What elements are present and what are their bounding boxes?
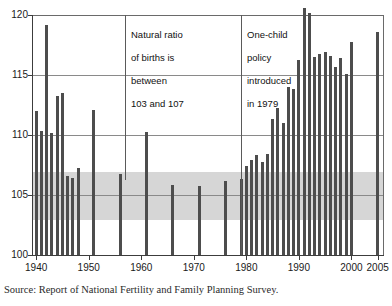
bar — [308, 13, 311, 255]
bar — [345, 74, 348, 255]
x-tick-2005 — [378, 256, 379, 260]
bar — [313, 57, 316, 255]
bar — [261, 162, 264, 255]
bar — [40, 131, 43, 255]
one-child-line-1: One-child — [247, 29, 291, 41]
bar — [250, 160, 253, 255]
bar — [303, 8, 306, 255]
bar — [297, 60, 300, 255]
x-axis-label-2000: 2000 — [340, 262, 362, 273]
bar — [45, 25, 48, 255]
bar — [266, 154, 269, 255]
bar — [145, 132, 148, 255]
bar — [66, 176, 69, 255]
natural-ratio-line-1: Natural ratio — [131, 29, 184, 41]
bar — [35, 111, 38, 255]
bar — [56, 96, 59, 255]
bar — [198, 186, 201, 255]
bar — [77, 168, 80, 255]
bar — [334, 67, 337, 255]
x-tick-1950 — [89, 256, 90, 260]
bar — [92, 110, 95, 255]
bar-series — [32, 15, 384, 256]
bar — [255, 155, 258, 255]
x-axis-label-1960: 1960 — [130, 262, 152, 273]
plot-area — [32, 15, 384, 256]
x-axis: 19401950196019701980199020002005 — [0, 262, 392, 276]
natural-ratio-leader-line — [125, 15, 126, 180]
x-axis-label-2005: 2005 — [367, 262, 389, 273]
y-axis: 120 115 110 105 100 — [0, 0, 28, 306]
bar — [50, 133, 53, 255]
x-tick-1940 — [36, 256, 37, 260]
bar — [245, 166, 248, 255]
x-tick-1960 — [141, 256, 142, 260]
bar — [61, 93, 64, 255]
x-axis-label-1970: 1970 — [183, 262, 205, 273]
x-axis-label-1980: 1980 — [235, 262, 257, 273]
one-child-annotation: One-child policy introduced in 1979 — [247, 17, 291, 121]
natural-ratio-line-3: between — [131, 75, 184, 87]
bar — [324, 52, 327, 255]
bar — [224, 181, 227, 255]
bar — [271, 119, 274, 255]
bar — [329, 56, 332, 255]
y-axis-label-110: 110 — [12, 130, 28, 140]
x-axis-label-1990: 1990 — [288, 262, 310, 273]
x-tick-2000 — [351, 256, 352, 260]
natural-ratio-annotation: Natural ratio of births is between 103 a… — [131, 17, 184, 121]
x-axis-label-1940: 1940 — [25, 262, 47, 273]
bar — [282, 123, 285, 255]
bar — [350, 42, 353, 255]
one-child-line-2: policy — [247, 52, 291, 64]
x-tick-1990 — [299, 256, 300, 260]
y-axis-label-120: 120 — [11, 10, 28, 20]
y-axis-label-100: 100 — [11, 250, 28, 260]
bar — [119, 174, 122, 255]
natural-ratio-line-2: of births is — [131, 52, 184, 64]
natural-ratio-line-4: 103 and 107 — [131, 98, 184, 110]
bar — [171, 185, 174, 255]
x-axis-label-1950: 1950 — [78, 262, 100, 273]
y-axis-label-105: 105 — [11, 190, 28, 200]
one-child-line-4: in 1979 — [247, 98, 291, 110]
x-tick-1970 — [194, 256, 195, 260]
bar — [376, 32, 379, 255]
one-child-line-3: introduced — [247, 75, 291, 87]
x-tick-1980 — [246, 256, 247, 260]
bar — [276, 108, 279, 255]
bar — [292, 89, 295, 255]
source-note: Source: Report of National Fertility and… — [4, 284, 278, 295]
bar — [318, 54, 321, 255]
chart-figure: 120 115 110 105 100 Natural ratio of bir… — [0, 0, 392, 306]
y-axis-label-115: 115 — [12, 70, 28, 80]
bar — [339, 58, 342, 255]
bar — [71, 178, 74, 255]
one-child-leader-line — [241, 15, 242, 255]
